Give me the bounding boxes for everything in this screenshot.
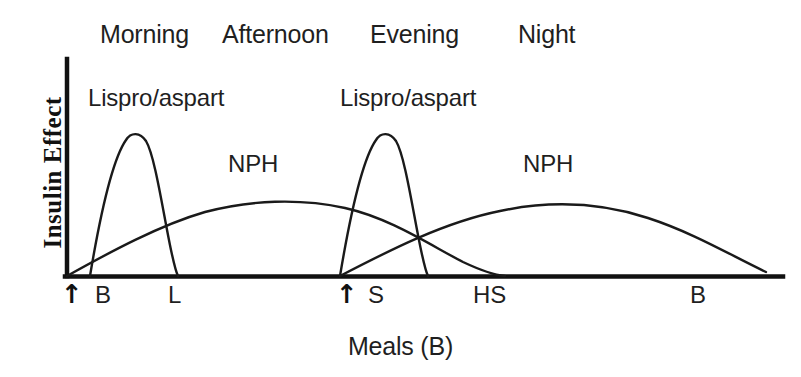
x-tick-label-l-lunch: L [168, 283, 181, 307]
curve-label-lispro-morning: Lispro/aspart [88, 86, 224, 110]
injection-arrow-icon-breakfast: ↑ [61, 281, 83, 307]
x-axis-title: Meals (B) [0, 334, 801, 359]
curve-label-lispro-supper: Lispro/aspart [340, 86, 476, 110]
insulin-effect-chart: Insulin Effect Morning Afternoon Evening… [0, 0, 801, 377]
curve-lispro-morning [90, 134, 178, 276]
x-tick-label-b-next-breakfast: B [690, 283, 706, 307]
period-label-afternoon: Afternoon [222, 22, 329, 47]
curve-label-nph-bedtime: NPH [523, 152, 573, 176]
curve-label-nph-morning: NPH [228, 152, 278, 176]
x-tick-label-s-supper: S [368, 283, 384, 307]
x-tick-label-hs-bedtime: HS [473, 283, 506, 307]
curve-nph-morning [67, 202, 505, 276]
x-tick-label-b-breakfast: B [95, 283, 111, 307]
period-label-night: Night [518, 22, 575, 47]
curve-nph-bedtime [340, 204, 766, 276]
period-label-morning: Morning [100, 22, 189, 47]
y-axis-title: Insulin Effect [40, 73, 65, 273]
injection-arrow-icon-supper: ↑ [336, 281, 358, 307]
period-label-evening: Evening [370, 22, 459, 47]
chart-plot-area [0, 0, 801, 377]
